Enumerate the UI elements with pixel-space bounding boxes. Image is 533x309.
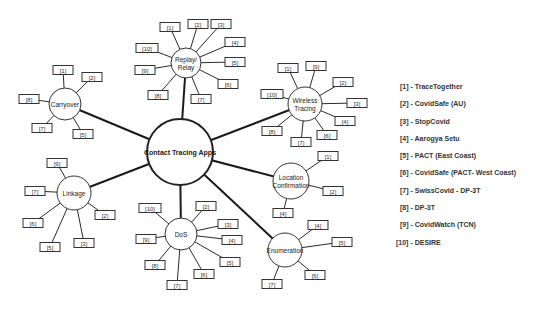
ref-box-replay: [10] bbox=[136, 44, 158, 53]
ref-box-linkage: [9] bbox=[47, 159, 67, 168]
ref-box-carryover: [1] bbox=[53, 66, 73, 75]
legend-item: [4] - Aarogya Setu bbox=[400, 130, 533, 147]
ref-box-location: [1] bbox=[318, 152, 338, 161]
category-label: DoS bbox=[175, 231, 188, 238]
ref-label: [3] bbox=[225, 222, 232, 228]
ref-label: [6] bbox=[201, 272, 208, 278]
ref-box-replay: [2] bbox=[188, 20, 208, 29]
ref-label: [6] bbox=[30, 221, 37, 227]
ref-label: [10] bbox=[145, 206, 155, 212]
legend-item: [1] - TraceTogether bbox=[400, 78, 533, 95]
legend-item: [10] - DESIRE bbox=[396, 234, 533, 251]
category-label: Confirmation bbox=[273, 182, 310, 189]
ref-box-replay: [5] bbox=[225, 58, 245, 67]
ref-box-dos: [8] bbox=[145, 261, 165, 270]
ref-box-wireless: [6] bbox=[317, 131, 337, 140]
ref-label: [10] bbox=[267, 92, 277, 98]
legend-item: [8] - DP-3T bbox=[400, 199, 533, 216]
legend-item: [6] - CovidSafe (PACT- West Coast) bbox=[400, 164, 533, 181]
ref-box-wireless: [3] bbox=[347, 99, 367, 108]
ref-label: [1] bbox=[285, 66, 292, 72]
ref-box-location: [4] bbox=[273, 209, 293, 218]
ref-box-linkage: [3] bbox=[74, 239, 94, 248]
ref-label: [7] bbox=[39, 126, 46, 132]
legend-item: [5] - PACT (East Coast) bbox=[400, 147, 533, 164]
ref-box-carryover: [5] bbox=[73, 130, 93, 139]
ref-box-dos: [9] bbox=[136, 235, 156, 244]
ref-box-replay: [1] bbox=[160, 23, 180, 32]
ref-box-enumeration: [7] bbox=[262, 280, 282, 289]
category-label: Enumeration bbox=[267, 247, 304, 254]
ref-label: [5] bbox=[339, 240, 346, 246]
category-node-linkage: Linkage bbox=[57, 176, 91, 210]
ref-box-wireless: [9] bbox=[306, 62, 326, 71]
ref-label: [4] bbox=[315, 223, 322, 229]
ref-box-enumeration: [6] bbox=[305, 271, 325, 280]
ref-label: [5] bbox=[232, 60, 239, 66]
ref-label: [7] bbox=[298, 140, 305, 146]
ref-label: [5] bbox=[227, 260, 234, 266]
ref-label: [6] bbox=[312, 273, 319, 279]
ref-label: [2] bbox=[89, 75, 96, 81]
category-label: Relay bbox=[178, 64, 195, 72]
ref-box-replay: [9] bbox=[135, 66, 155, 75]
ref-label: [2] bbox=[203, 204, 210, 210]
ref-label: [7] bbox=[269, 282, 276, 288]
legend-item: [3] - StopCovid bbox=[400, 113, 533, 130]
category-node-replay: Replay/Relay bbox=[171, 48, 201, 78]
ref-box-wireless: [10] bbox=[261, 90, 283, 99]
legend-item: [9] - CovidWatch (TCN) bbox=[400, 216, 533, 233]
ref-label: [1] bbox=[60, 68, 67, 74]
ref-box-dos: [10] bbox=[139, 204, 161, 213]
ref-label: [4] bbox=[229, 238, 236, 244]
ref-box-linkage: [5] bbox=[40, 243, 60, 252]
ref-label: [2] bbox=[195, 22, 202, 28]
ref-label: [9] bbox=[54, 161, 61, 167]
ref-box-dos: [4] bbox=[222, 236, 242, 245]
ref-label: [2] bbox=[102, 213, 109, 219]
ref-label: [8] bbox=[26, 97, 33, 103]
ref-box-location: [2] bbox=[323, 187, 343, 196]
category-label: Tracing bbox=[294, 105, 316, 113]
category-label: Linkage bbox=[63, 190, 86, 198]
ref-box-wireless: [8] bbox=[262, 127, 282, 136]
ref-box-replay: [6] bbox=[218, 80, 238, 89]
ref-box-dos: [6] bbox=[194, 270, 214, 279]
ref-label: [7] bbox=[174, 283, 181, 289]
ref-label: [1] bbox=[167, 25, 174, 31]
ref-label: [3] bbox=[218, 22, 225, 28]
ref-box-wireless: [4] bbox=[335, 117, 355, 126]
ref-box-dos: [5] bbox=[220, 258, 240, 267]
ref-box-carryover: [8] bbox=[19, 95, 39, 104]
ref-label: [9] bbox=[142, 68, 149, 74]
ref-box-replay: [3] bbox=[211, 20, 231, 29]
ref-label: [5] bbox=[47, 245, 54, 251]
ref-box-dos: [7] bbox=[167, 281, 187, 290]
ref-box-replay: [7] bbox=[191, 95, 211, 104]
ref-label: [8] bbox=[155, 93, 162, 99]
ref-box-dos: [3] bbox=[218, 220, 238, 229]
ref-label: [7] bbox=[198, 97, 205, 103]
ref-label: [9] bbox=[313, 64, 320, 70]
ref-label: [5] bbox=[80, 132, 87, 138]
category-label: Location bbox=[279, 174, 304, 181]
ref-label: [8] bbox=[152, 263, 159, 269]
ref-box-carryover: [2] bbox=[82, 73, 102, 82]
ref-box-replay: [4] bbox=[225, 38, 245, 47]
category-node-carryover: Carryover bbox=[49, 88, 81, 120]
ref-box-wireless: [2] bbox=[333, 78, 353, 87]
ref-label: [2] bbox=[330, 189, 337, 195]
ref-box-linkage: [2] bbox=[95, 211, 115, 220]
ref-label: [10] bbox=[142, 46, 152, 52]
category-label: Wireless bbox=[293, 97, 319, 104]
ref-label: [8] bbox=[269, 129, 276, 135]
category-node-location: LocationConfirmation bbox=[273, 163, 310, 199]
ref-label: [4] bbox=[232, 40, 239, 46]
hub-label: Contact Tracing Apps bbox=[144, 149, 216, 157]
category-node-dos: DoS bbox=[165, 218, 197, 250]
legend-item: [7] - SwissCovid - DP-3T bbox=[400, 182, 533, 199]
ref-box-wireless: [7] bbox=[291, 138, 311, 147]
ref-label: [2] bbox=[340, 80, 347, 86]
ref-label: [3] bbox=[81, 241, 88, 247]
ref-box-dos: [2] bbox=[196, 202, 216, 211]
